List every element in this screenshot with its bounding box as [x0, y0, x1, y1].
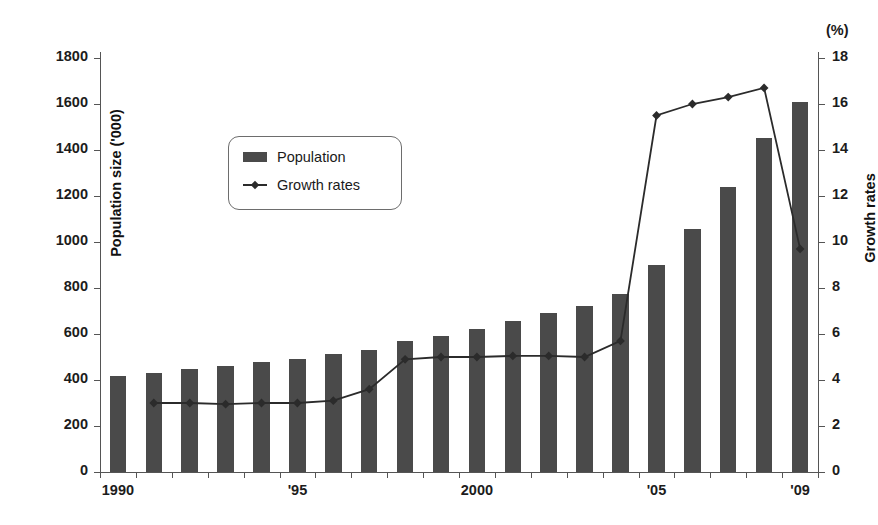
y-axis-right-tick-label: 4: [832, 370, 872, 386]
legend-item-growth-rates: Growth rates: [243, 177, 360, 193]
x-axis-tick: [746, 472, 747, 478]
diamond-marker: [544, 352, 553, 361]
x-axis-tick: [818, 472, 819, 478]
diamond-marker: [257, 399, 266, 408]
x-axis-tick: [674, 472, 675, 478]
chart-legend: Population Growth rates: [228, 136, 402, 210]
x-axis-tick: [351, 472, 352, 478]
x-axis-tick: [782, 472, 783, 478]
diamond-marker: [437, 353, 446, 362]
x-axis-tick: [567, 472, 568, 478]
diamond-marker: [580, 353, 589, 362]
x-axis-tick: [459, 472, 460, 478]
diamond-marker: [796, 245, 805, 254]
diamond-marker: [473, 353, 482, 362]
diamond-marker: [724, 93, 733, 102]
x-axis-tick: [280, 472, 281, 478]
y-axis-right-tick-label: 14: [832, 140, 872, 156]
y-axis-left-tick-label: 1200: [28, 186, 88, 202]
y-axis-right-tick: [818, 58, 825, 59]
diamond-marker: [149, 399, 158, 408]
diamond-marker: [185, 399, 194, 408]
x-axis-tick: [136, 472, 137, 478]
x-axis-tick-label: '05: [621, 482, 691, 498]
x-axis-tick-label: '09: [765, 482, 835, 498]
diamond-marker: [508, 352, 517, 361]
y-axis-right-tick: [818, 242, 825, 243]
x-axis-tick: [710, 472, 711, 478]
y-axis-left-tick-label: 0: [28, 462, 88, 478]
bar-swatch-icon: [243, 152, 267, 162]
legend-item-population: Population: [243, 149, 346, 165]
x-axis-tick: [315, 472, 316, 478]
diamond-marker: [293, 399, 302, 408]
x-axis-tick: [423, 472, 424, 478]
y-axis-right-tick-label: 2: [832, 416, 872, 432]
y-axis-right-tick: [818, 334, 825, 335]
line-series-growth-rates: [100, 58, 818, 472]
y-axis-right-tick-label: 10: [832, 232, 872, 248]
diamond-marker: [616, 337, 625, 346]
diamond-marker: [652, 111, 661, 120]
y-axis-right-tick: [818, 288, 825, 289]
x-axis-tick: [495, 472, 496, 478]
y-axis-left-tick-label: 400: [28, 370, 88, 386]
y-axis-right-tick-label: 0: [832, 462, 872, 478]
diamond-marker: [221, 400, 230, 409]
x-axis-tick-label: 1990: [83, 482, 153, 498]
x-axis-tick: [639, 472, 640, 478]
y-axis-right-tick: [818, 150, 825, 151]
y-axis-right-tick: [818, 196, 825, 197]
x-axis-tick: [172, 472, 173, 478]
line-diamond-icon: [243, 180, 267, 190]
diamond-marker: [688, 100, 697, 109]
diamond-marker: [760, 84, 769, 93]
y-axis-right-unit: (%): [826, 22, 849, 38]
y-axis-right-title: Growth rates: [862, 88, 878, 348]
y-axis-right-tick-label: 16: [832, 94, 872, 110]
y-axis-right-tick: [818, 472, 825, 473]
legend-label-population: Population: [277, 149, 346, 165]
x-axis-tick: [208, 472, 209, 478]
y-axis-right-tick: [818, 104, 825, 105]
x-axis-tick: [100, 472, 101, 478]
y-axis-left-tick-label: 1600: [28, 94, 88, 110]
y-axis-left-tick-label: 200: [28, 416, 88, 432]
y-axis-right-tick-label: 18: [832, 48, 872, 64]
y-axis-left-tick-label: 1400: [28, 140, 88, 156]
x-axis-tick: [387, 472, 388, 478]
y-axis-left-tick-label: 600: [28, 324, 88, 340]
y-axis-right-line: [818, 52, 819, 478]
y-axis-left-tick-label: 800: [28, 278, 88, 294]
x-axis-tick-label: '95: [262, 482, 332, 498]
y-axis-right-tick-label: 12: [832, 186, 872, 202]
x-axis-tick: [244, 472, 245, 478]
y-axis-left-tick-label: 1000: [28, 232, 88, 248]
y-axis-right-tick: [818, 380, 825, 381]
legend-label-growth-rates: Growth rates: [277, 177, 360, 193]
y-axis-right-tick: [818, 426, 825, 427]
y-axis-right-tick-label: 8: [832, 278, 872, 294]
x-axis-tick: [603, 472, 604, 478]
x-axis-tick: [531, 472, 532, 478]
diamond-marker: [329, 396, 338, 405]
y-axis-right-tick-label: 6: [832, 324, 872, 340]
y-axis-left-tick-label: 1800: [28, 48, 88, 64]
x-axis-tick-label: 2000: [442, 482, 512, 498]
